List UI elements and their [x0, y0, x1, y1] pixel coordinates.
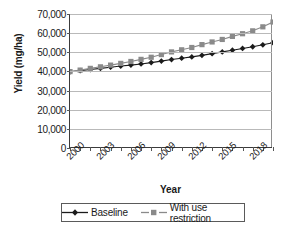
- y-axis-tick-labels: 010,00020,00030,00040,00050,00060,00070,…: [22, 0, 66, 230]
- gridline: [70, 110, 272, 111]
- x-axis-tick: [273, 147, 274, 151]
- y-axis-tick: [67, 14, 71, 15]
- y-axis-tick-label: 40,000: [24, 66, 66, 77]
- plot-area: [69, 14, 272, 148]
- y-axis-tick-label: 30,000: [24, 85, 66, 96]
- data-point-diamond: [189, 54, 195, 60]
- data-point-square: [220, 37, 225, 42]
- gridline: [70, 91, 272, 92]
- y-axis-tick-label: 50,000: [24, 47, 66, 58]
- data-point-diamond: [199, 52, 205, 58]
- x-axis-tick: [121, 147, 122, 151]
- x-axis-tick: [212, 147, 213, 151]
- data-point-square: [210, 39, 215, 44]
- data-point-square: [189, 45, 194, 50]
- data-point-diamond: [250, 44, 256, 50]
- gridline: [70, 14, 272, 15]
- y-axis-tick-label: 60,000: [24, 28, 66, 39]
- y-axis-tick: [67, 33, 71, 34]
- gridline: [70, 129, 272, 130]
- y-axis-tick-label: 10,000: [24, 123, 66, 134]
- data-point-square: [118, 61, 123, 66]
- data-point-diamond: [179, 55, 185, 61]
- y-axis-tick-label: 70,000: [24, 9, 66, 20]
- x-axis-tick: [151, 147, 152, 151]
- y-axis-tick: [67, 52, 71, 53]
- y-axis-tick-label: 0: [24, 143, 66, 154]
- data-point-square: [98, 64, 103, 69]
- legend-swatch-with-use-restriction: [141, 208, 167, 217]
- legend-item-with-use-restriction[interactable]: With use restriction: [141, 202, 244, 224]
- data-point-diamond: [148, 60, 154, 66]
- x-axis-title: Year: [69, 184, 272, 195]
- data-point-square: [199, 42, 204, 47]
- data-point-square: [128, 59, 133, 64]
- data-point-square: [260, 24, 265, 29]
- gridline: [70, 71, 272, 72]
- gridline: [70, 52, 272, 53]
- data-point-diamond: [240, 46, 246, 52]
- x-axis-tick: [182, 147, 183, 151]
- y-axis-tick: [67, 91, 71, 92]
- chart-legend: Baseline With use restriction: [61, 203, 245, 222]
- data-point-square: [88, 66, 93, 71]
- legend-label-with-use-restriction: With use restriction: [170, 202, 244, 224]
- data-point-diamond: [169, 57, 175, 63]
- x-axis-tick: [243, 147, 244, 151]
- data-point-square: [230, 34, 235, 39]
- gridline: [70, 33, 272, 34]
- data-point-square: [108, 63, 113, 68]
- y-axis-tick: [67, 71, 71, 72]
- legend-label-baseline: Baseline: [91, 207, 128, 218]
- data-point-diamond: [158, 58, 164, 64]
- x-axis-tick: [90, 147, 91, 151]
- yield-projection-chart: Yield (mg/ha) 010,00020,00030,00040,0005…: [0, 0, 284, 230]
- y-axis-tick-label: 20,000: [24, 104, 66, 115]
- data-point-square: [149, 55, 154, 60]
- legend-swatch-baseline: [62, 208, 88, 217]
- y-axis-tick: [67, 129, 71, 130]
- data-point-square: [138, 57, 143, 62]
- data-point-diamond: [260, 42, 266, 48]
- y-axis-tick: [67, 110, 71, 111]
- legend-item-baseline[interactable]: Baseline: [62, 207, 128, 218]
